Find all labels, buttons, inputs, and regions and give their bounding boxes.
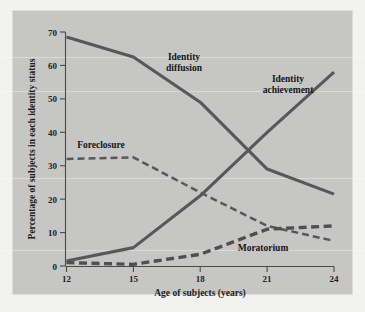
series-label-moratorium: Moratorium: [238, 243, 289, 253]
y-tick-label: 70: [48, 28, 58, 38]
series-line-identity-diffusion: [67, 37, 335, 194]
y-tick-label: 0: [53, 262, 58, 272]
series-label-line-1: Identity: [168, 52, 200, 62]
y-tick-labels: 70 60 50 40 30 20 10 0: [48, 28, 58, 272]
x-tick-label: 21: [263, 274, 273, 284]
series-label-line-2: diffusion: [166, 63, 203, 73]
x-tick-label: 12: [62, 274, 72, 284]
series-label-identity-diffusion: Identity diffusion: [166, 52, 203, 73]
line-chart: 70 60 50 40 30 20 10 0 12 15 18 21 24 Ag…: [0, 0, 365, 312]
y-tick-label: 10: [48, 228, 58, 238]
y-tick-label: 30: [48, 161, 58, 171]
series-label-foreclosure: Foreclosure: [77, 140, 125, 150]
series-label-line-1: Identity: [272, 74, 304, 84]
series-label-identity-achievement: Identity achievement: [263, 74, 314, 95]
x-tick-label: 15: [129, 274, 139, 284]
figure-root: 70 60 50 40 30 20 10 0 12 15 18 21 24 Ag…: [0, 0, 365, 312]
y-axis: [60, 32, 66, 266]
y-axis-title: Percentage of subjects in each identity …: [27, 58, 37, 239]
y-tick-label: 50: [48, 94, 58, 104]
x-axis-title: Age of subjects (years): [154, 288, 246, 299]
x-tick-label: 24: [330, 274, 340, 284]
x-tick-label: 18: [196, 274, 206, 284]
y-tick-label: 60: [48, 61, 58, 71]
y-tick-label: 20: [48, 195, 58, 205]
x-tick-labels: 12 15 18 21 24: [62, 274, 339, 284]
y-tick-label: 40: [48, 128, 58, 138]
series-label-line-2: achievement: [263, 85, 314, 95]
x-axis: [66, 267, 335, 273]
